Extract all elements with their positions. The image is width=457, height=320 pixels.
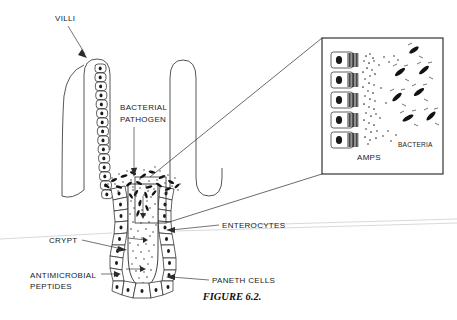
epithelial-cell xyxy=(98,145,109,154)
epithelial-cell xyxy=(97,109,108,118)
epithelial-cell xyxy=(102,190,113,199)
crypt-cell xyxy=(114,209,128,222)
enterocytes-label: ENTEROCYTES xyxy=(222,221,285,230)
villus-right xyxy=(170,60,222,196)
label-paneth-cells-group: PANETH CELLS xyxy=(166,274,275,285)
epithelial-cell xyxy=(96,91,107,100)
bacterial-pathogen-label-line1: BACTERIAL xyxy=(120,103,167,112)
bacterium xyxy=(400,110,418,126)
bacterium xyxy=(417,62,433,79)
epithelial-cell xyxy=(96,100,107,109)
inset-panel: BACTERIA AMPS xyxy=(322,38,443,174)
label-bacterial-pathogen-group: BACTERIAL PATHOGEN xyxy=(120,103,167,177)
crypt-cell xyxy=(110,256,123,270)
inset-bacteria-group xyxy=(390,43,439,126)
label-enterocytes-group: ENTEROCYTES xyxy=(166,221,285,233)
figure-container: BACTERIA AMPS VILLI BACTERIAL PATHOGEN E… xyxy=(0,0,457,320)
crypt-cell xyxy=(158,209,171,222)
inset-connector-lines xyxy=(150,38,322,223)
inset-enterocyte xyxy=(331,132,358,148)
paneth-cell-rosette xyxy=(112,281,173,298)
label-villi-group: VILLI xyxy=(55,14,87,58)
epithelial-cell xyxy=(97,118,108,127)
bacterium xyxy=(412,84,428,101)
crypt-cell xyxy=(112,233,127,245)
villi-label: VILLI xyxy=(55,14,75,23)
inset-enterocyte xyxy=(331,72,358,88)
epithelial-cell xyxy=(100,172,111,181)
bacterium xyxy=(393,64,409,81)
crypt-cell xyxy=(114,221,128,234)
crypt-lumen xyxy=(126,184,158,286)
paneth-cell xyxy=(161,281,173,295)
paneth-cell xyxy=(149,281,163,298)
inset-enterocyte xyxy=(331,112,358,128)
epithelial-cell xyxy=(95,73,106,82)
figure-caption: FIGURE 6.2. xyxy=(202,291,262,302)
paneth-cells-label: PANETH CELLS xyxy=(212,276,275,285)
inset-bacteria-label: BACTERIA xyxy=(398,141,433,148)
inset-enterocyte xyxy=(331,52,358,68)
inset-enterocyte xyxy=(331,92,358,108)
bacterial-pathogen-label-line2: PATHOGEN xyxy=(120,115,166,124)
crypt-label: CRYPT xyxy=(49,236,77,245)
antimicrobial-peptides-label-line1: ANTIMICROBIAL xyxy=(30,271,96,280)
label-antimicrobial-peptides-group: ANTIMICROBIAL PEPTIDES xyxy=(30,271,121,291)
crypt-cell xyxy=(159,233,174,245)
enterocytes-leader xyxy=(171,225,219,230)
epithelial-cell xyxy=(95,64,106,73)
inset-amps-label: AMPS xyxy=(357,153,381,162)
epithelial-cell xyxy=(99,154,110,163)
epithelial-cell xyxy=(95,82,106,91)
intestinal-villi-diagram: BACTERIA AMPS VILLI BACTERIAL PATHOGEN E… xyxy=(0,0,457,320)
antimicrobial-peptides-label-line2: PEPTIDES xyxy=(30,282,72,291)
bacterium xyxy=(390,89,406,106)
paneth-cells-leader xyxy=(171,277,209,280)
epithelial-cell xyxy=(98,136,109,145)
villi-arrowhead xyxy=(78,49,87,58)
crypt-cell xyxy=(161,245,176,258)
bacterium xyxy=(424,108,439,125)
villi-leader xyxy=(68,26,85,54)
paneth-cell xyxy=(133,283,151,298)
epithelial-cell xyxy=(97,127,108,136)
crypt-cell xyxy=(163,258,176,270)
epithelial-cell xyxy=(99,163,110,172)
bacterium xyxy=(408,43,423,58)
